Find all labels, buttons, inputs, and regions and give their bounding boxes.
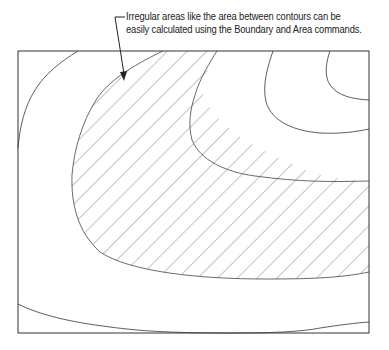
callout-leader-arrow [115, 17, 127, 81]
contour-upper-right-small [326, 51, 369, 100]
contour-bottom [18, 304, 369, 333]
contour-diagram [0, 0, 389, 350]
hatched-area [18, 51, 369, 333]
contour-outer-left [18, 51, 78, 148]
contour-upper-right-large [265, 51, 369, 133]
